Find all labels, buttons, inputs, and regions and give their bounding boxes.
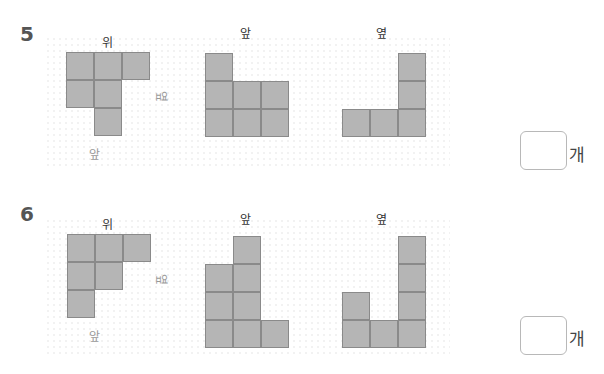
cube-cell (94, 108, 122, 136)
cube-cell (233, 264, 261, 292)
cube-cell (122, 52, 150, 80)
cube-cell (261, 81, 289, 109)
cube-cell (233, 81, 261, 109)
cube-cell (94, 52, 122, 80)
cube-cell (95, 262, 123, 290)
cube-cell (66, 52, 94, 80)
top-view-label: 위 (102, 33, 113, 50)
cube-cell (342, 320, 370, 348)
cube-cell (398, 236, 426, 264)
cube-cell (205, 320, 233, 348)
cube-cell (233, 109, 261, 137)
front-view-label: 앞 (240, 210, 251, 227)
cube-cell (398, 109, 426, 137)
cube-cell (94, 80, 122, 108)
cube-cell (398, 292, 426, 320)
cube-cell (123, 234, 151, 262)
side-direction-label: 옆 (154, 274, 171, 285)
cube-cell (233, 320, 261, 348)
cube-cell (205, 109, 233, 137)
answer-box[interactable] (520, 316, 567, 355)
cube-cell (370, 109, 398, 137)
cube-cell (342, 292, 370, 320)
side-direction-label: 옆 (154, 91, 171, 102)
answer-box[interactable] (520, 131, 567, 170)
cube-cell (205, 53, 233, 81)
front-direction-label: 앞 (89, 145, 100, 162)
cube-cell (370, 320, 398, 348)
cube-cell (261, 320, 289, 348)
cube-cell (67, 290, 95, 318)
side-view-label: 옆 (376, 210, 387, 227)
cube-cell (95, 234, 123, 262)
top-view-label: 위 (102, 215, 113, 232)
cube-cell (398, 320, 426, 348)
front-direction-label: 앞 (89, 327, 100, 344)
problem-number: 5 (20, 22, 34, 46)
cube-cell (398, 81, 426, 109)
cube-cell (205, 292, 233, 320)
cube-cell (66, 80, 94, 108)
cube-cell (205, 81, 233, 109)
cube-cell (233, 236, 261, 264)
cube-cell (67, 262, 95, 290)
cube-cell (398, 264, 426, 292)
front-view-label: 앞 (240, 24, 251, 41)
cube-cell (205, 264, 233, 292)
side-view-label: 옆 (376, 24, 387, 41)
cube-cell (233, 292, 261, 320)
cube-cell (261, 109, 289, 137)
cube-cell (342, 109, 370, 137)
answer-unit: 개 (569, 141, 585, 166)
answer-unit: 개 (569, 325, 585, 350)
cube-cell (398, 53, 426, 81)
cube-cell (67, 234, 95, 262)
problem-number: 6 (20, 202, 34, 226)
